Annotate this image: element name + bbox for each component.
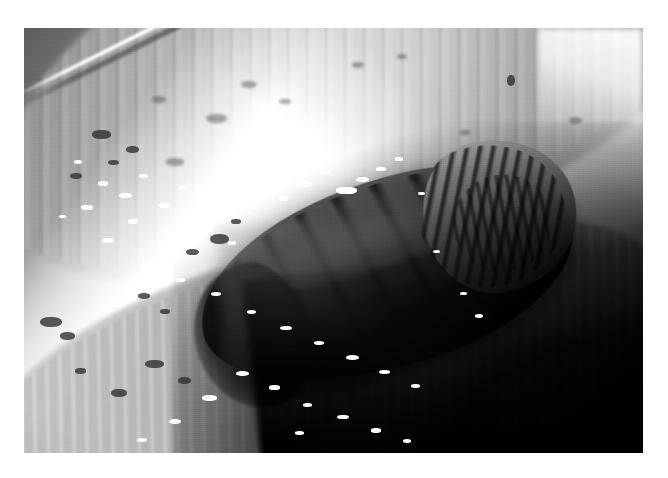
macro-photograph: [24, 28, 643, 453]
film-grain: [24, 28, 643, 453]
photo-page: Grayscale macro photograph of an insect …: [0, 0, 668, 478]
